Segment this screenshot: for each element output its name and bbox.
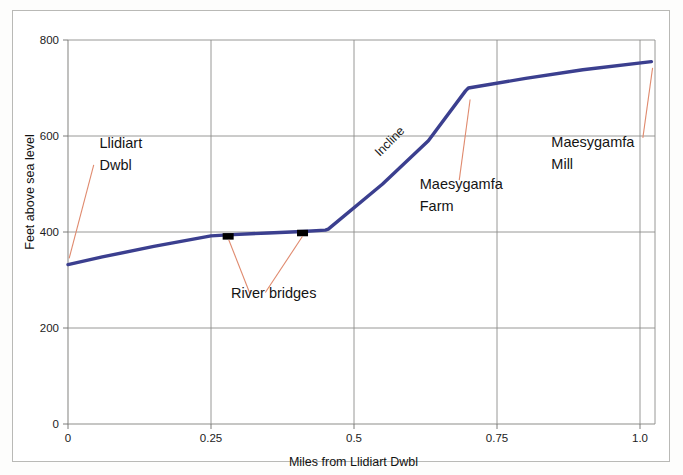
leader-river-bridges-2: [265, 236, 302, 292]
xtick-label-0.75: 0.75: [486, 432, 508, 444]
annotation-leader-lines: [69, 68, 652, 294]
leader-maesygamfa-mill: [643, 68, 653, 138]
chart-figure: 020040060080000.250.50.751.0 LlidiartDwb…: [0, 0, 683, 475]
river-bridge-marker-1: [223, 233, 234, 240]
annotation-river-bridges-line-1: River bridges: [231, 285, 316, 301]
ytick-label-800: 800: [40, 34, 59, 46]
x-axis-title: Miles from Llidiart Dwbl: [289, 455, 418, 469]
ytick-label-0: 0: [53, 418, 59, 430]
annotation-maesygamfa-farm-line-2: Farm: [420, 198, 454, 214]
annotation-labels: LlidiartDwblRiver bridgesInclineMaesygam…: [99, 124, 635, 301]
river-bridge-marker-2: [297, 230, 308, 237]
annotation-incline: Incline: [372, 124, 407, 159]
axis-tick-labels: 020040060080000.250.50.751.0: [40, 34, 648, 444]
annotation-llidiart-dwbl-line-1: Llidiart: [99, 135, 142, 151]
annotation-llidiart-dwbl: LlidiartDwbl: [99, 135, 142, 173]
ytick-label-200: 200: [40, 322, 59, 334]
elevation-profile-chart: 020040060080000.250.50.751.0 LlidiartDwb…: [0, 0, 683, 475]
xtick-label-0: 0: [65, 432, 71, 444]
gridlines: [68, 40, 655, 424]
xtick-label-1.0: 1.0: [632, 432, 648, 444]
annotation-river-bridges: River bridges: [231, 285, 316, 301]
plot-frame: [63, 40, 655, 429]
leader-llidiart-dwbl: [69, 165, 94, 259]
leader-maesygamfa-farm: [459, 100, 470, 181]
annotation-maesygamfa-mill-line-2: Mill: [551, 156, 573, 172]
ytick-label-600: 600: [40, 130, 59, 142]
axis-titles: Miles from Llidiart DwblFeet above sea l…: [23, 134, 418, 469]
annotation-maesygamfa-mill-line-1: Maesygamfa: [551, 134, 635, 150]
ytick-label-400: 400: [40, 226, 59, 238]
annotation-maesygamfa-farm-line-1: Maesygamfa: [420, 176, 504, 192]
annotation-maesygamfa-farm: MaesygamfaFarm: [420, 176, 504, 214]
annotation-incline-line-1: Incline: [372, 124, 407, 159]
annotation-llidiart-dwbl-line-2: Dwbl: [99, 157, 131, 173]
y-axis-title: Feet above sea level: [23, 134, 37, 249]
xtick-label-0.5: 0.5: [346, 432, 362, 444]
annotation-maesygamfa-mill: MaesygamfaMill: [551, 134, 635, 172]
xtick-label-0.25: 0.25: [200, 432, 222, 444]
